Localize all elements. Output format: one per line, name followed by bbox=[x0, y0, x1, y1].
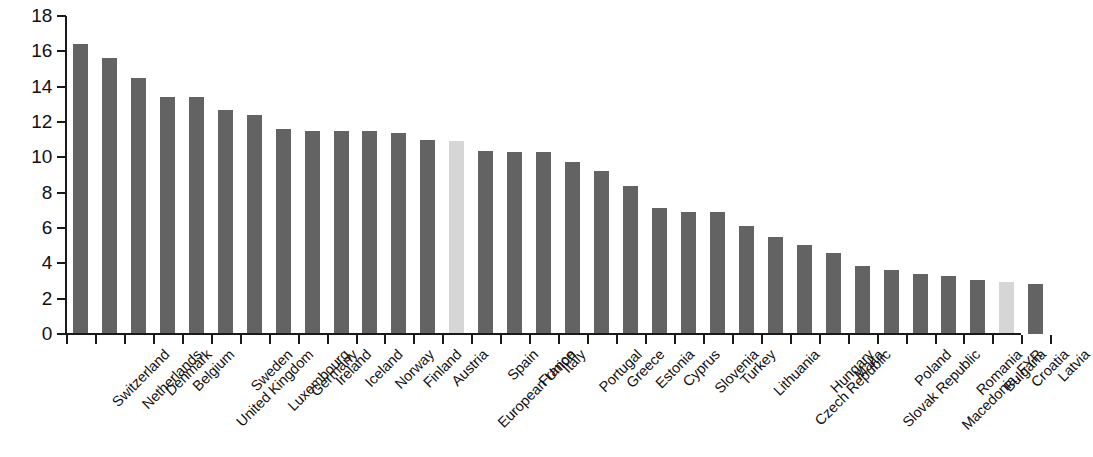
x-axis-tick bbox=[240, 335, 242, 344]
x-axis-tick bbox=[877, 335, 879, 344]
bar bbox=[189, 97, 204, 334]
bar bbox=[131, 78, 146, 334]
x-axis-tick bbox=[935, 335, 937, 344]
bar bbox=[941, 276, 956, 334]
bar bbox=[362, 131, 377, 334]
y-axis-tick-label: 16 bbox=[2, 41, 52, 60]
y-axis-tick-label: 12 bbox=[2, 112, 52, 131]
bar bbox=[536, 152, 551, 334]
x-axis-tick bbox=[616, 335, 618, 344]
bar bbox=[999, 282, 1014, 334]
x-axis-tick bbox=[1050, 335, 1052, 344]
y-axis-tick bbox=[57, 298, 66, 300]
x-axis-tick bbox=[211, 335, 213, 344]
x-axis-tick bbox=[1021, 335, 1023, 344]
bar bbox=[507, 152, 522, 334]
bar bbox=[797, 245, 812, 334]
x-axis-tick bbox=[529, 335, 531, 344]
bar bbox=[768, 237, 783, 334]
bar bbox=[449, 141, 464, 334]
x-axis-tick bbox=[703, 335, 705, 344]
bar bbox=[855, 266, 870, 334]
y-axis-tick bbox=[57, 333, 66, 335]
x-axis-tick bbox=[790, 335, 792, 344]
x-axis-tick bbox=[819, 335, 821, 344]
bar bbox=[565, 162, 580, 334]
x-axis-tick bbox=[153, 335, 155, 344]
bar bbox=[652, 208, 667, 334]
bar bbox=[623, 186, 638, 334]
y-axis-tick bbox=[57, 156, 66, 158]
x-axis-tick bbox=[269, 335, 271, 344]
bar bbox=[594, 171, 609, 334]
y-axis-tick bbox=[57, 50, 66, 52]
y-axis-tick-label: 0 bbox=[2, 324, 52, 343]
x-axis-tick bbox=[732, 335, 734, 344]
bar bbox=[218, 110, 233, 334]
x-axis-tick bbox=[906, 335, 908, 344]
x-axis-tick bbox=[384, 335, 386, 344]
x-axis-tick-label-wrap: Lithuania bbox=[771, 347, 822, 398]
x-axis-tick bbox=[761, 335, 763, 344]
y-axis-line bbox=[65, 16, 67, 334]
bar bbox=[826, 253, 841, 334]
bar bbox=[420, 140, 435, 334]
x-axis-tick bbox=[298, 335, 300, 344]
x-axis-tick bbox=[442, 335, 444, 344]
y-axis-tick-label: 8 bbox=[2, 183, 52, 202]
x-axis-tick bbox=[992, 335, 994, 344]
plot-area bbox=[0, 0, 1031, 334]
x-axis-tick bbox=[558, 335, 560, 344]
y-axis-tick bbox=[57, 262, 66, 264]
bar bbox=[739, 226, 754, 334]
bar bbox=[681, 212, 696, 334]
x-axis-tick bbox=[645, 335, 647, 344]
x-axis-tick bbox=[848, 335, 850, 344]
y-axis-tick-label: 2 bbox=[2, 289, 52, 308]
x-axis-tick bbox=[66, 335, 68, 344]
bar bbox=[247, 115, 262, 334]
y-axis-tick bbox=[57, 86, 66, 88]
y-axis-tick bbox=[57, 227, 66, 229]
bar bbox=[276, 129, 291, 334]
y-axis-tick-label: 10 bbox=[2, 147, 52, 166]
bar bbox=[1028, 284, 1043, 334]
x-axis-tick bbox=[124, 335, 126, 344]
x-axis-tick bbox=[500, 335, 502, 344]
x-axis-tick bbox=[327, 335, 329, 344]
x-axis-tick bbox=[95, 335, 97, 344]
y-axis-tick-label: 14 bbox=[2, 77, 52, 96]
x-axis-tick bbox=[674, 335, 676, 344]
bar bbox=[102, 58, 117, 334]
bar bbox=[160, 97, 175, 334]
bar bbox=[970, 280, 985, 334]
bar bbox=[73, 44, 88, 334]
x-axis-tick bbox=[182, 335, 184, 344]
bar bbox=[391, 133, 406, 334]
x-axis-tick bbox=[963, 335, 965, 344]
x-axis-tick-label: Lithuania bbox=[771, 347, 822, 398]
bar bbox=[305, 131, 320, 334]
x-axis-tick bbox=[587, 335, 589, 344]
bar bbox=[710, 212, 725, 334]
y-axis-tick-label: 6 bbox=[2, 218, 52, 237]
y-axis-tick-label: 4 bbox=[2, 253, 52, 272]
bar bbox=[334, 131, 349, 334]
x-axis-tick bbox=[356, 335, 358, 344]
x-axis-tick bbox=[413, 335, 415, 344]
y-axis-tick bbox=[57, 15, 66, 17]
y-axis-tick-label: 18 bbox=[2, 6, 52, 25]
bar bbox=[884, 270, 899, 334]
x-axis-tick bbox=[471, 335, 473, 344]
y-axis-tick bbox=[57, 121, 66, 123]
bar bbox=[913, 274, 928, 334]
bar bbox=[478, 151, 493, 334]
y-axis-tick bbox=[57, 192, 66, 194]
